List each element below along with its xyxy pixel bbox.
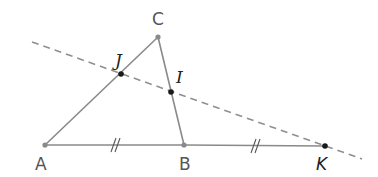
- geometry-diagram: C J I A B K: [0, 0, 378, 177]
- label-k: K: [316, 154, 329, 174]
- segment-ac: [45, 37, 158, 145]
- label-b: B: [179, 154, 191, 174]
- point-b: [181, 142, 186, 147]
- dashed-line-jik: [32, 42, 362, 159]
- point-k: [322, 143, 328, 149]
- label-j: J: [112, 50, 123, 70]
- point-i: [168, 89, 174, 95]
- label-c: C: [152, 9, 164, 29]
- point-c: [155, 34, 160, 39]
- label-a: A: [35, 154, 47, 174]
- label-i: I: [175, 67, 183, 87]
- point-j: [118, 71, 124, 77]
- segment-bk: [184, 145, 325, 146]
- point-a: [42, 142, 47, 147]
